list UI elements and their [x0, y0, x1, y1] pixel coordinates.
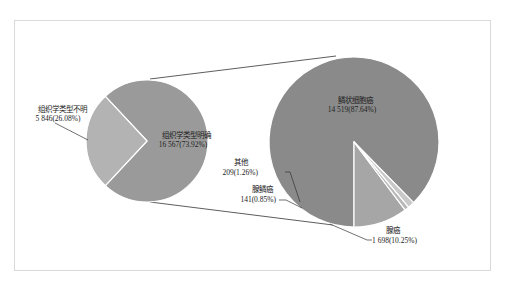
label-known-name: 组织学类型明确 — [162, 130, 211, 140]
label-unknown-value: 5 846(26.08%) — [36, 114, 81, 123]
label-squamous-name: 鳞状细胞癌 — [338, 95, 374, 105]
label-adenosquamous-name: 腺鳞癌 — [252, 184, 274, 194]
secondary-pie — [269, 57, 439, 227]
label-squamous-value: 14 519(87.64%) — [328, 105, 377, 114]
pie-of-pie-chart: 组织学类型不明 5 846(26.08%) 组织学类型明确 16 567(73.… — [0, 0, 506, 287]
label-adeno-value: 1 698(10.25%) — [372, 236, 417, 245]
label-known-value: 16 567(73.92%) — [159, 140, 208, 149]
label-other-value: 209(1.26%) — [222, 168, 258, 177]
leader-unknown — [55, 123, 88, 140]
label-unknown-name: 组织学类型不明 — [38, 104, 87, 114]
label-adenosquamous-value: 141(0.85%) — [240, 195, 276, 204]
label-adeno-name: 腺癌 — [386, 225, 401, 235]
label-other-name: 其他 — [234, 157, 249, 167]
